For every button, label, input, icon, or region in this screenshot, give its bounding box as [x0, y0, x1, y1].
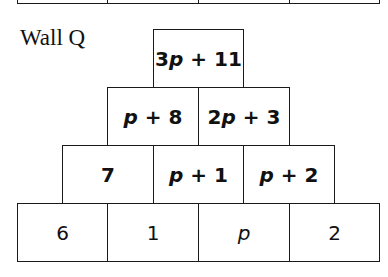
- previous-wall-cell: [17, 0, 108, 4]
- brick-expression: 1: [147, 221, 160, 245]
- brick-expression: p + 2: [260, 163, 319, 187]
- previous-wall-cell: [289, 0, 380, 4]
- wall-label: Wall Q: [20, 25, 85, 51]
- wall-brick: p + 2: [243, 145, 335, 204]
- wall-brick-base: p: [198, 203, 290, 262]
- brick-expression: 2: [328, 221, 341, 245]
- brick-expression: p: [238, 221, 251, 245]
- brick-expression: 6: [56, 221, 69, 245]
- wall-brick: 7: [62, 145, 154, 204]
- previous-wall-cell: [198, 0, 290, 4]
- wall-brick: p + 8: [107, 87, 199, 146]
- wall-brick: p + 1: [153, 145, 244, 204]
- wall-brick-base: 2: [289, 203, 380, 262]
- brick-expression: 2p + 3: [208, 105, 281, 129]
- wall-brick-base: 1: [107, 203, 199, 262]
- brick-expression: p + 1: [169, 163, 228, 187]
- brick-expression: 3p + 11: [155, 47, 242, 71]
- brick-expression: 7: [101, 163, 115, 187]
- previous-wall-cell: [107, 0, 199, 4]
- wall-brick-base: 6: [17, 203, 108, 262]
- wall-brick: 2p + 3: [198, 87, 290, 146]
- brick-expression: p + 8: [124, 105, 183, 129]
- wall-brick-top: 3p + 11: [153, 29, 244, 88]
